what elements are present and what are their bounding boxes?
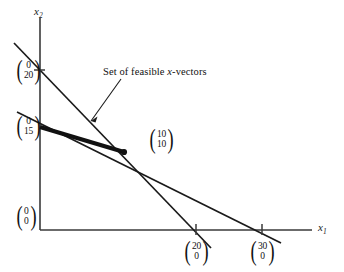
annotation-text-after: -vectors: [172, 66, 207, 77]
feasible-set-boundary: [40, 127, 124, 152]
y-axis-label: x2: [34, 5, 43, 20]
x-axis-label: x1: [318, 221, 327, 236]
annotation-text-before: Set of feasible: [103, 66, 167, 77]
right-paren: ): [168, 126, 174, 153]
point-label-0-15: ( 0 15 ): [15, 113, 42, 140]
x-axis-label-sub: 1: [323, 227, 327, 236]
point-label-30-0: ( 30 0 ): [249, 238, 276, 265]
optimal-vertex-dot: [121, 149, 127, 155]
vector-bottom-value: 15: [24, 127, 33, 137]
left-paren: (: [250, 238, 256, 265]
feasible-set-annotation: Set of feasible x-vectors: [103, 66, 207, 77]
left-paren: (: [16, 113, 22, 140]
left-paren: (: [184, 238, 190, 265]
vector-values: 20 0: [192, 242, 201, 261]
right-paren: ): [203, 238, 209, 265]
point-label-20-0: ( 20 0 ): [183, 238, 210, 265]
left-paren: (: [149, 126, 155, 153]
vector-values: 10 10: [157, 130, 166, 149]
right-paren: ): [35, 113, 41, 140]
right-paren: ): [35, 57, 41, 84]
right-paren: ): [269, 238, 275, 265]
vector-values: 0 15: [24, 117, 33, 136]
y-axis-label-sub: 2: [39, 11, 43, 20]
annotation-leader-line: [91, 79, 121, 121]
point-label-10-10: ( 10 10 ): [148, 126, 175, 153]
right-paren: ): [30, 203, 36, 230]
left-paren: (: [16, 57, 22, 84]
vector-bottom-value: 10: [157, 140, 166, 150]
vector-bottom-value: 0: [24, 217, 29, 227]
feasible-region-diagram: x2 x1 Set of feasible x-vectors ( 0 20 )…: [0, 0, 344, 272]
vector-bottom-value: 0: [194, 252, 199, 262]
point-label-0-0: ( 0 0 ): [15, 203, 38, 230]
vector-values: 0 20: [24, 61, 33, 80]
vector-values: 30 0: [258, 242, 267, 261]
left-paren: (: [16, 203, 22, 230]
point-label-0-20: ( 0 20 ): [15, 57, 42, 84]
vector-bottom-value: 0: [260, 252, 265, 262]
vector-bottom-value: 20: [24, 71, 33, 81]
vector-values: 0 0: [24, 207, 29, 226]
